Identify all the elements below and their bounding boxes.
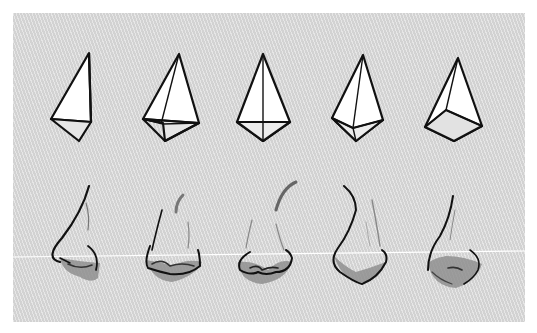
nose-5 [428,196,482,288]
pyramid-2 [143,54,199,141]
nose-3 [238,182,296,284]
pyramid-1 [51,53,91,141]
nose-4 [333,186,386,284]
pyramid-3 [237,54,290,141]
nose-1 [52,186,100,281]
pyramid-4 [332,55,383,141]
nose-2 [146,195,202,282]
pyramid-5 [425,58,482,141]
drawing-canvas [0,0,537,333]
